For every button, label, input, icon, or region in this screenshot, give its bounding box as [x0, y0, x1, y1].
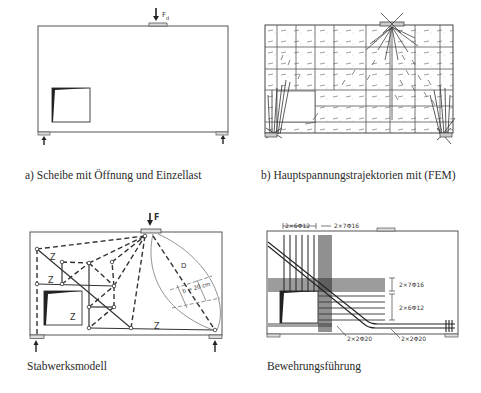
- load-plate: [141, 229, 161, 233]
- rebar-label-right-lower: 2×6Φ12: [399, 304, 424, 311]
- load-arrow-icon: [147, 213, 153, 226]
- support-left: [267, 334, 280, 337]
- caption-c: Stabwerksmodell: [27, 360, 107, 372]
- strut-label: D: [181, 262, 186, 270]
- support-right: [216, 132, 228, 135]
- tie-label-mid: Z: [48, 276, 54, 285]
- opening: [280, 291, 318, 323]
- load-label: F: [154, 213, 159, 222]
- rebar-label-bottom-right: 2×2Φ20: [401, 335, 426, 342]
- rebar-label-right-upper: 2×7Φ16: [399, 281, 424, 288]
- strut-width-label: b ≈ 20 cm: [182, 281, 211, 294]
- stress-field: [151, 234, 220, 330]
- reaction-arrow-left-icon: [42, 136, 47, 145]
- support-right: [445, 334, 458, 337]
- tie-label-bottom: Z: [154, 322, 160, 331]
- stirrups-2x6-phi12: [284, 235, 314, 292]
- rebar-label-top-left: 2×6Φ12: [285, 222, 310, 229]
- reaction-arrow-right-icon: [213, 340, 218, 352]
- caption-b: b) Hauptspannungstrajektorien mit (FEM): [261, 169, 456, 181]
- opening: [52, 88, 90, 122]
- tie-label-top: Z: [50, 253, 56, 262]
- figure-b-fem-stress-trajectories: [240, 0, 481, 160]
- opening: [277, 91, 315, 122]
- support-left: [38, 132, 50, 135]
- reaction-arrow-left-icon: [34, 340, 39, 352]
- rebar-label-top-right: 2×7Φ16: [334, 222, 359, 229]
- rebar-label-bottom-left: 2×2Φ20: [347, 335, 372, 342]
- figure-a-plate-with-opening: F d: [0, 0, 240, 160]
- bottom-bars-2x2-phi20: [268, 324, 332, 326]
- tie-label-opening: Z: [70, 313, 76, 322]
- reaction-arrow-right-icon: [221, 135, 226, 144]
- load-plate: [149, 23, 167, 26]
- caption-d: Bewehrungsführung: [267, 360, 361, 372]
- figure-d-reinforcement-layout: 2×6Φ12 2×7Φ16 2×7Φ16 2×6Φ12 2×2Φ20 2×2Φ2…: [240, 200, 481, 360]
- support-left: [30, 335, 44, 339]
- support-left: [265, 133, 277, 137]
- load-subscript: d: [166, 15, 169, 21]
- load-arrow-icon: [153, 8, 159, 21]
- figure-c-strut-and-tie-model: F: [0, 200, 240, 360]
- support-right: [209, 335, 222, 339]
- caption-a: a) Scheibe mit Öffnung und Einzellast: [25, 169, 201, 181]
- opening: [44, 291, 82, 325]
- support-right: [440, 133, 452, 137]
- load-plate: [377, 228, 395, 231]
